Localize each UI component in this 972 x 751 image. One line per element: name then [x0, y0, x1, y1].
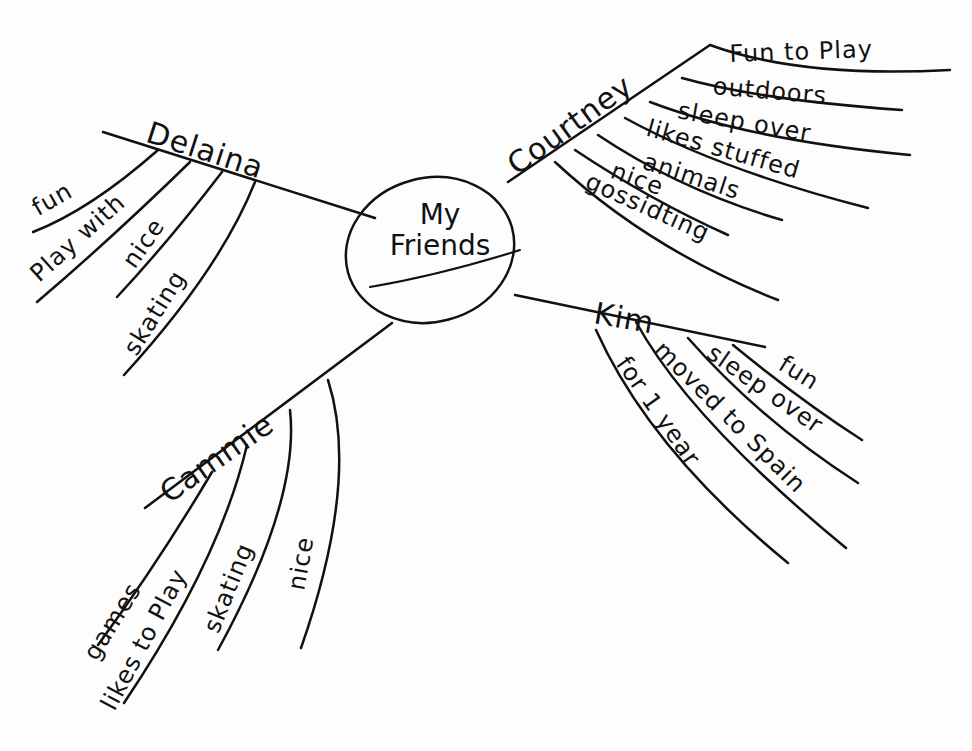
mind-map: My Friends Delaina fun Play with nice sk… [0, 0, 972, 751]
center-node: My Friends [370, 200, 510, 262]
center-title-line1: My [370, 200, 510, 231]
courtney-item-fun-to-play: Fun to Play [729, 37, 873, 66]
center-title-line2: Friends [370, 231, 510, 262]
